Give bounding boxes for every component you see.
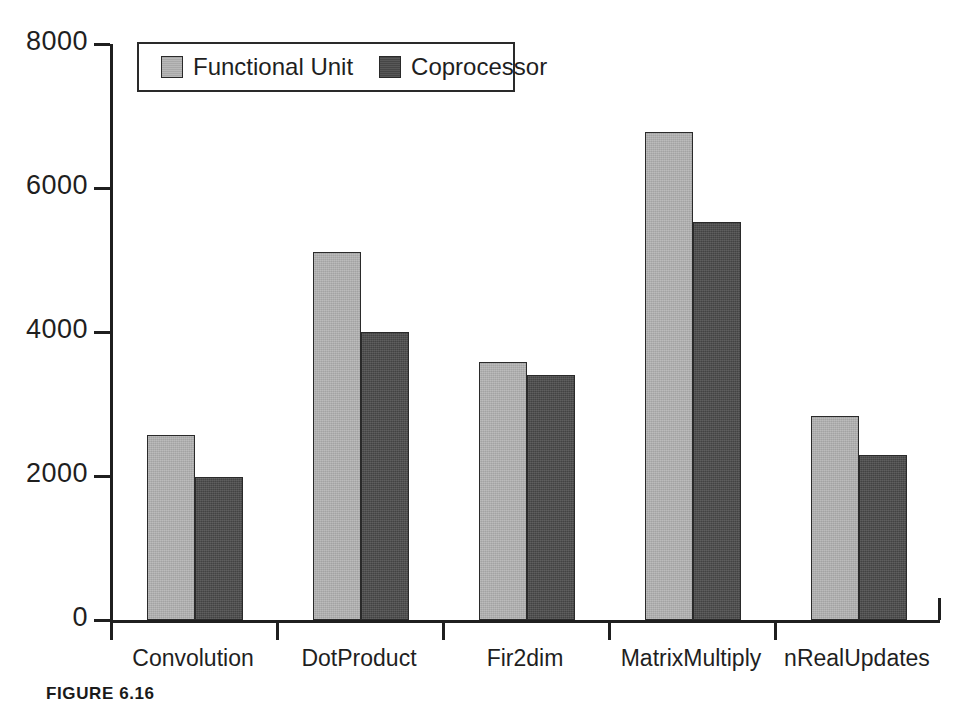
y-axis-tick: [94, 475, 110, 478]
x-axis-group-tick: [276, 620, 279, 640]
y-axis-tick-label: 8000: [26, 26, 88, 57]
figure-container: 02000400060008000 ConvolutionDotProductF…: [0, 0, 973, 702]
x-axis-label-fir2dim: Fir2dim: [442, 645, 608, 672]
bar-dotproduct-functional-unit: [313, 252, 361, 620]
legend-entry-coprocessor: Coprocessor: [379, 53, 547, 81]
x-axis-group-tick: [442, 620, 445, 640]
bar-matrixmultiply-coprocessor: [693, 222, 741, 620]
legend-label-coprocessor: Coprocessor: [411, 53, 547, 81]
y-axis-tick: [94, 619, 110, 622]
x-axis-group-tick: [608, 620, 611, 640]
bar-nrealupdates-functional-unit: [811, 416, 859, 620]
bar-fir2dim-functional-unit: [479, 362, 527, 620]
y-axis-tick-label: 2000: [26, 458, 88, 489]
y-axis-tick: [94, 187, 110, 190]
x-axis-label-nrealupdates: nRealUpdates: [774, 645, 940, 672]
y-axis-tick-label: 4000: [26, 314, 88, 345]
bar-fir2dim-coprocessor: [527, 375, 575, 620]
y-axis-tick: [94, 43, 110, 46]
x-axis-group-tick: [774, 620, 777, 640]
chart-legend: Functional Unit Coprocessor: [137, 42, 515, 92]
x-axis-label-dotproduct: DotProduct: [276, 645, 442, 672]
legend-entry-functional-unit: Functional Unit: [161, 53, 353, 81]
legend-swatch-functional-unit-icon: [161, 56, 183, 78]
legend-label-functional-unit: Functional Unit: [193, 53, 353, 81]
y-axis-tick-label: 6000: [26, 170, 88, 201]
x-axis-group-tick: [110, 620, 113, 640]
bar-dotproduct-coprocessor: [361, 332, 409, 620]
bar-convolution-coprocessor: [195, 477, 243, 620]
bar-convolution-functional-unit: [147, 435, 195, 620]
y-axis-tick-label: 0: [72, 602, 88, 633]
bar-matrixmultiply-functional-unit: [645, 132, 693, 620]
bar-nrealupdates-coprocessor: [859, 455, 907, 620]
y-axis-tick: [94, 331, 110, 334]
x-axis-label-matrixmultiply: MatrixMultiply: [608, 645, 774, 672]
plot-area: [110, 44, 940, 620]
x-axis-label-convolution: Convolution: [110, 645, 276, 672]
figure-caption: FIGURE 6.16: [46, 684, 155, 702]
x-axis-line: [110, 620, 940, 623]
legend-swatch-coprocessor-icon: [379, 56, 401, 78]
